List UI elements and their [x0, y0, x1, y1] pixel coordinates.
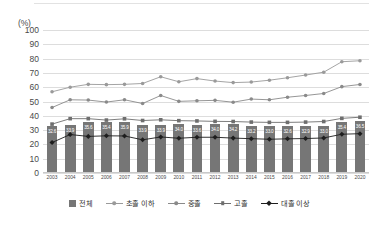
- series-marker: [268, 78, 272, 82]
- series-marker: [105, 100, 109, 104]
- series-marker: [194, 135, 199, 140]
- x-axis-tick-label: 2013: [228, 176, 239, 181]
- series-marker: [303, 136, 308, 141]
- legend-line-swatch: [106, 200, 123, 207]
- series-marker: [285, 136, 290, 141]
- series-marker: [304, 73, 308, 77]
- gridline: 0: [43, 173, 369, 174]
- y-axis-tick-label: 80: [30, 54, 39, 63]
- series-marker: [123, 83, 127, 87]
- x-axis-tick-label: 2010: [173, 176, 184, 181]
- series-marker: [68, 117, 72, 121]
- legend-bar-swatch: [69, 200, 76, 207]
- legend-item-label: 초졸 이하: [126, 198, 155, 208]
- top-divider: [34, 3, 369, 4]
- x-axis-tick-label: 2014: [246, 176, 257, 181]
- series-marker: [249, 136, 254, 141]
- legend-item-label: 전체: [79, 198, 93, 208]
- series-marker: [304, 120, 308, 124]
- series-marker: [267, 137, 272, 142]
- series-marker: [158, 134, 163, 139]
- series-marker: [213, 120, 217, 124]
- legend-item[interactable]: 중졸: [168, 198, 202, 208]
- series-line: [52, 134, 360, 143]
- y-axis-tick-label: 100: [25, 26, 39, 35]
- series-marker: [358, 115, 362, 119]
- x-axis-tick-label: 2009: [155, 176, 166, 181]
- series-marker: [357, 131, 362, 136]
- series-marker: [159, 75, 163, 79]
- series-marker: [159, 118, 163, 122]
- series-marker: [322, 92, 326, 96]
- legend-item[interactable]: 전체: [69, 198, 93, 208]
- chart-screenshot: (%) 0102030405060708090100 32.633.935.63…: [0, 0, 379, 226]
- series-marker: [68, 98, 72, 102]
- legend-line-swatch: [261, 200, 278, 207]
- line-series: [50, 83, 361, 110]
- legend-item[interactable]: 초졸 이하: [106, 198, 155, 208]
- x-axis-tick-label: 2017: [300, 176, 311, 181]
- x-axis-tick-label: 2016: [282, 176, 293, 181]
- legend-item-label: 대졸 이상: [281, 198, 310, 208]
- series-marker: [177, 80, 181, 84]
- series-marker: [268, 98, 272, 102]
- series-marker: [195, 119, 199, 123]
- series-marker: [86, 117, 90, 121]
- plot-area: 0102030405060708090100 32.633.935.635.43…: [43, 30, 369, 173]
- series-marker: [141, 119, 145, 123]
- series-marker: [50, 140, 55, 145]
- series-marker: [159, 94, 163, 98]
- x-axis-tick-label: 2003: [47, 176, 58, 181]
- series-marker: [68, 132, 73, 137]
- series-marker: [213, 79, 217, 83]
- x-axis-tick-label: 2012: [210, 176, 221, 181]
- series-marker: [123, 117, 127, 121]
- legend-line-swatch: [214, 200, 231, 207]
- series-marker: [231, 136, 236, 141]
- legend-line-swatch: [168, 200, 185, 207]
- series-marker: [86, 83, 90, 87]
- series-marker: [286, 121, 290, 125]
- chart-legend: 전체초졸 이하중졸고졸대졸 이상: [0, 194, 379, 212]
- x-axis-tick-label: 2007: [119, 176, 130, 181]
- series-marker: [105, 118, 109, 122]
- series-marker: [340, 117, 344, 121]
- series-line: [52, 117, 360, 124]
- series-marker: [213, 135, 218, 140]
- series-marker: [68, 85, 72, 89]
- y-axis-tick-label: 0: [34, 169, 39, 178]
- series-marker: [322, 120, 326, 124]
- series-marker: [286, 76, 290, 80]
- series-marker: [304, 94, 308, 98]
- x-axis-tick-label: 2015: [264, 176, 275, 181]
- series-marker: [141, 102, 145, 106]
- x-axis-tick-label: 2020: [354, 176, 365, 181]
- x-axis-tick-label: 2006: [101, 176, 112, 181]
- series-marker: [231, 81, 235, 85]
- series-marker: [249, 80, 253, 84]
- series-marker: [286, 95, 290, 99]
- series-marker: [321, 135, 326, 140]
- x-axis-tick-label: 2004: [65, 176, 76, 181]
- series-marker: [231, 100, 235, 104]
- series-marker: [105, 83, 109, 87]
- series-marker: [340, 85, 344, 89]
- y-axis-tick-label: 90: [30, 40, 39, 49]
- series-marker: [268, 121, 272, 125]
- series-marker: [122, 133, 127, 138]
- series-marker: [249, 120, 253, 124]
- legend-item[interactable]: 고졸: [214, 198, 248, 208]
- x-axis-tick-label: 2018: [318, 176, 329, 181]
- legend-item-label: 중졸: [188, 198, 202, 208]
- y-axis-tick-label: 10: [30, 154, 39, 163]
- legend-item[interactable]: 대졸 이상: [261, 198, 310, 208]
- line-series-group: [43, 30, 369, 173]
- series-marker: [195, 99, 199, 103]
- series-marker: [195, 77, 199, 81]
- x-axis-tick-label: 2011: [192, 176, 203, 181]
- y-axis-tick-label: 20: [30, 140, 39, 149]
- y-axis-tick-label: 70: [30, 69, 39, 78]
- x-axis-tick-label: 2008: [137, 176, 148, 181]
- legend-item-label: 고졸: [234, 198, 248, 208]
- y-axis-tick-label: 50: [30, 97, 39, 106]
